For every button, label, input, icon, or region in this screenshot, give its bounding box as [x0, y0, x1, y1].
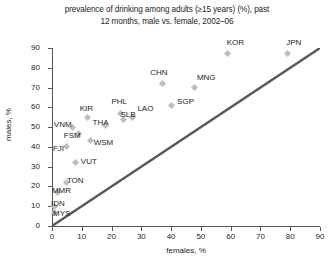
x-tick-label-80: 80 [275, 232, 305, 241]
x-tick-label-90: 90 [305, 232, 334, 241]
x-tick-label-10: 10 [67, 232, 97, 241]
x-tick-30 [141, 227, 142, 231]
x-tick-90 [320, 227, 321, 231]
data-point-label-vnm: VNM [54, 120, 72, 129]
data-point-label-mys: MYS [53, 209, 70, 218]
x-tick-0 [52, 227, 53, 231]
x-tick-70 [260, 227, 261, 231]
data-point-label-tha: THA [93, 118, 109, 127]
chart-title-line-2: 12 months, male vs. female, 2002–06 [0, 16, 334, 28]
x-tick-label-60: 60 [216, 232, 246, 241]
x-tick-60 [231, 227, 232, 231]
data-point-label-wsm: WSM [94, 138, 114, 147]
data-point-label-idn: IDN [51, 199, 65, 208]
y-tick-label-0: 0 [6, 221, 40, 230]
data-point-label-sgp: SGP [177, 97, 194, 106]
data-point-label-chn: CHN [150, 68, 167, 77]
data-point-label-vut: VUT [81, 157, 97, 166]
x-tick-label-70: 70 [245, 232, 275, 241]
x-tick-10 [82, 227, 83, 231]
x-axis-line [52, 226, 320, 227]
y-axis-title: males, % [4, 95, 13, 155]
plot-area [52, 48, 320, 226]
chart-title-line-1: prevalence of drinking among adults (≥15… [0, 4, 334, 16]
x-tick-label-0: 0 [37, 232, 67, 241]
data-point-label-jpn: JPN [286, 38, 301, 47]
chart-title: prevalence of drinking among adults (≥15… [0, 4, 334, 27]
x-tick-label-30: 30 [126, 232, 156, 241]
data-point-label-fji: FJI [53, 144, 64, 153]
data-point-label-mng: MNG [197, 73, 216, 82]
data-point-label-phl: PHL [111, 97, 127, 106]
y-tick-label-70: 70 [6, 83, 40, 92]
data-point-label-mmr: MMR [52, 186, 71, 195]
y-tick-label-80: 80 [6, 63, 40, 72]
x-tick-50 [201, 227, 202, 231]
x-tick-40 [171, 227, 172, 231]
x-tick-label-20: 20 [97, 232, 127, 241]
data-point-label-kor: KOR [227, 38, 244, 47]
data-point-label-lao: LAO [137, 104, 153, 113]
data-point-label-fsm: FSM [64, 131, 81, 140]
x-tick-80 [290, 227, 291, 231]
y-tick-label-30: 30 [6, 162, 40, 171]
data-point-label-ton: TON [67, 176, 84, 185]
data-point-label-kir: KIR [80, 104, 93, 113]
data-point-label-slb: SLB [120, 110, 135, 119]
x-tick-label-50: 50 [186, 232, 216, 241]
x-tick-label-40: 40 [156, 232, 186, 241]
scatter-chart: prevalence of drinking among adults (≥15… [0, 0, 334, 266]
x-axis-title: females, % [52, 246, 320, 255]
y-tick-label-20: 20 [6, 181, 40, 190]
y-tick-label-10: 10 [6, 201, 40, 210]
y-tick-label-90: 90 [6, 43, 40, 52]
x-tick-20 [112, 227, 113, 231]
